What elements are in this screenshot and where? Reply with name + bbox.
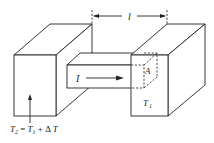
- hot-temp-equation: T2 = T1 + Δ T: [10, 124, 59, 135]
- svg-text:T2 = T1 + Δ T: T2 = T1 + Δ T: [10, 124, 59, 135]
- svg-text:1: 1: [149, 103, 152, 109]
- length-dimension: l: [92, 10, 167, 24]
- left-block-front: [14, 55, 56, 116]
- arrow-left-icon: [93, 14, 99, 18]
- diagram-canvas: l I A T 1 T2 = T1 + Δ T: [0, 0, 214, 143]
- heat-flow-label: I: [75, 73, 80, 84]
- area-label: A: [144, 66, 151, 76]
- arrow-right-icon: [160, 14, 166, 18]
- length-label: l: [128, 11, 131, 22]
